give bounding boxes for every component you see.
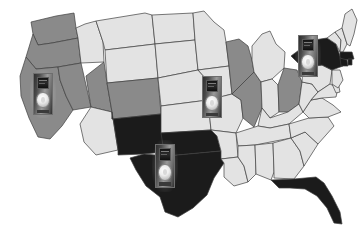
player-base	[37, 110, 49, 113]
state-RI[interactable]	[348, 59, 352, 65]
player-base	[302, 72, 314, 75]
state-AL[interactable]	[255, 143, 274, 180]
screen-line	[161, 154, 167, 155]
state-TX[interactable]	[130, 151, 224, 217]
media-player-icon	[155, 144, 175, 188]
marker-south[interactable]	[155, 144, 175, 188]
screen-line	[304, 45, 310, 46]
screen-line	[208, 83, 217, 84]
media-player-icon	[298, 35, 318, 77]
marker-west[interactable]	[33, 73, 53, 115]
player-base	[159, 182, 171, 185]
state-MT[interactable]	[96, 13, 155, 50]
us-device-distribution-map	[0, 0, 359, 236]
state-ND[interactable]	[152, 13, 195, 44]
player-clickwheel-icon	[205, 95, 218, 111]
screen-line	[304, 42, 313, 43]
player-clickwheel-icon	[301, 54, 314, 70]
player-center-button-icon	[306, 59, 310, 64]
state-MN[interactable]	[193, 11, 229, 70]
screen-line	[39, 80, 48, 81]
state-NJ[interactable]	[332, 70, 343, 88]
player-center-button-icon	[210, 100, 214, 105]
player-screen-icon	[302, 39, 315, 51]
player-screen-icon	[37, 77, 50, 89]
player-center-button-icon	[163, 169, 167, 175]
screen-line	[208, 86, 214, 87]
player-screen-icon	[206, 80, 219, 92]
player-clickwheel-icon	[36, 92, 49, 108]
marker-northeast[interactable]	[298, 35, 318, 77]
state-FL[interactable]	[271, 177, 342, 224]
screen-line	[39, 83, 45, 84]
player-screen-icon	[159, 148, 172, 161]
player-base	[206, 113, 218, 116]
state-MI[interactable]	[252, 31, 285, 82]
player-center-button-icon	[41, 97, 45, 102]
media-player-icon	[202, 76, 222, 118]
marker-midwest[interactable]	[202, 76, 222, 118]
state-CO[interactable]	[107, 78, 161, 119]
media-player-icon	[33, 73, 53, 115]
state-WY[interactable]	[105, 44, 158, 83]
player-clickwheel-icon	[158, 164, 171, 181]
screen-line	[161, 151, 170, 152]
